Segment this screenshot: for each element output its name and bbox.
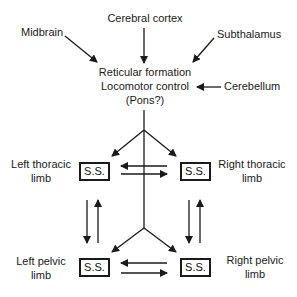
left-pelvic-ss-box: S.S. [79,258,110,277]
cerebral-cortex-label: Cerebral cortex [100,12,190,25]
right-pelvic-label-line2: limb [220,268,290,281]
left-pelvic-label-line2: limb [8,269,74,282]
left-pelvic-label-line1: Left pelvic [8,255,74,268]
right-pelvic-label-line1: Right pelvic [220,254,290,267]
left-thoracic-ss-box: S.S. [79,162,110,181]
right-thoracic-label-line1: Right thoracic [214,158,290,171]
cerebellum-label: Cerebellum [224,80,280,93]
reticular-formation-label: Reticular formation [90,66,200,79]
arrow-to-left-thoracic [112,130,144,156]
locomotor-control-label: Locomotor control [90,80,200,93]
right-thoracic-ss-box: S.S. [180,162,211,181]
arrow-to-right-thoracic [144,130,176,156]
right-thoracic-label-line2: limb [214,172,290,185]
pons-label: (Pons?) [90,94,200,107]
arrow-midbrain-to-reticular [65,36,97,62]
arrow-subthalamus-to-reticular [193,38,214,62]
connections [0,0,297,297]
arrow-to-left-pelvic [112,228,144,252]
arrow-to-right-pelvic [144,228,176,252]
subthalamus-label: Subthalamus [217,28,281,41]
left-thoracic-label-line2: limb [6,172,76,185]
left-thoracic-label-line1: Left thoracic [6,158,76,171]
midbrain-label: Midbrain [21,26,63,39]
right-pelvic-ss-box: S.S. [180,258,211,277]
